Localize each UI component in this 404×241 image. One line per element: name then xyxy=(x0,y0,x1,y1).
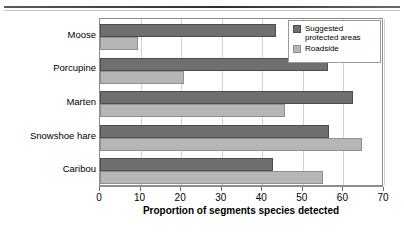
bar-row xyxy=(100,86,382,120)
x-tick-label: 60 xyxy=(337,192,348,203)
x-tick-label: 30 xyxy=(215,192,226,203)
x-tick xyxy=(180,187,181,191)
x-tick xyxy=(302,187,303,191)
bar-snowshoe-hare-suggested-protected-areas xyxy=(100,125,329,138)
category-label-porcupine: Porcupine xyxy=(0,62,96,73)
x-tick xyxy=(99,187,100,191)
x-tick-label: 40 xyxy=(256,192,267,203)
category-label-moose: Moose xyxy=(0,29,96,40)
chart-figure: MoosePorcupineMartenSnowshoe hareCaribou… xyxy=(0,0,404,241)
bar-caribou-suggested-protected-areas xyxy=(100,158,273,171)
bar-row xyxy=(100,153,382,187)
bar-moose-suggested-protected-areas xyxy=(100,24,276,37)
x-tick-label: 50 xyxy=(296,192,307,203)
bar-porcupine-roadside xyxy=(100,71,184,84)
x-tick-label: 20 xyxy=(175,192,186,203)
x-tick xyxy=(383,187,384,191)
bar-marten-roadside xyxy=(100,104,285,117)
x-axis: 010203040506070 xyxy=(99,186,383,188)
bar-marten-suggested-protected-areas xyxy=(100,91,353,104)
scan-rule-top xyxy=(4,6,400,8)
x-tick xyxy=(342,187,343,191)
legend-item-roadside: Roadside xyxy=(293,44,377,53)
bar-row xyxy=(100,120,382,154)
x-axis-title: Proportion of segments species detected xyxy=(99,205,383,216)
bar-snowshoe-hare-roadside xyxy=(100,138,362,151)
light-gray-swatch-icon xyxy=(293,45,301,53)
legend-label: Roadside xyxy=(305,44,339,53)
x-tick xyxy=(221,187,222,191)
bar-caribou-roadside xyxy=(100,171,323,184)
x-tick xyxy=(261,187,262,191)
category-label-snowshoe-hare: Snowshoe hare xyxy=(0,130,96,141)
legend: Suggested protected areas Roadside xyxy=(288,20,381,63)
category-label-caribou: Caribou xyxy=(0,163,96,174)
category-label-marten: Marten xyxy=(0,96,96,107)
x-tick-label: 0 xyxy=(96,192,102,203)
bar-moose-roadside xyxy=(100,37,138,50)
scan-rule-top-faint xyxy=(4,10,400,11)
dark-gray-swatch-icon xyxy=(293,25,301,33)
legend-label: Suggested protected areas xyxy=(305,24,377,42)
x-tick-label: 70 xyxy=(377,192,388,203)
x-tick-label: 10 xyxy=(134,192,145,203)
gridline xyxy=(384,19,385,185)
legend-item-suggested-protected-areas: Suggested protected areas xyxy=(293,24,377,42)
x-tick xyxy=(140,187,141,191)
